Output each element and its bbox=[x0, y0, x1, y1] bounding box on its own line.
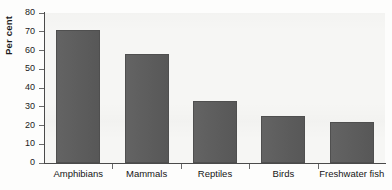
y-axis-tick-label: 0 bbox=[13, 158, 35, 167]
y-axis-tick bbox=[39, 50, 44, 51]
x-axis-line bbox=[44, 163, 386, 164]
y-axis-tick bbox=[39, 31, 44, 32]
y-axis-tick bbox=[39, 163, 44, 164]
bar bbox=[56, 30, 100, 163]
y-axis-tick-label: 20 bbox=[13, 121, 35, 130]
y-axis-tick-label: 40 bbox=[13, 83, 35, 92]
bar bbox=[261, 116, 305, 163]
y-axis-tick-label: 70 bbox=[13, 27, 35, 36]
y-axis-tick-label: 50 bbox=[13, 64, 35, 73]
bar bbox=[330, 122, 374, 163]
y-axis-tick-label: 30 bbox=[13, 102, 35, 111]
bar-chart: Per cent 01020304050607080 AmphibiansMam… bbox=[0, 0, 392, 190]
y-axis-tick bbox=[39, 88, 44, 89]
y-axis-tick-label: 60 bbox=[13, 46, 35, 55]
y-axis-tick-label: 80 bbox=[13, 8, 35, 17]
y-axis-tick bbox=[39, 125, 44, 126]
x-axis-category-label: Freshwater fish bbox=[312, 169, 392, 179]
y-axis-tick bbox=[39, 144, 44, 145]
y-axis-line bbox=[44, 12, 45, 164]
bar bbox=[193, 101, 237, 163]
y-axis-tick bbox=[39, 13, 44, 14]
y-axis-tick bbox=[39, 106, 44, 107]
y-axis-tick-label: 10 bbox=[13, 139, 35, 148]
bar bbox=[125, 54, 169, 163]
y-axis-tick bbox=[39, 69, 44, 70]
